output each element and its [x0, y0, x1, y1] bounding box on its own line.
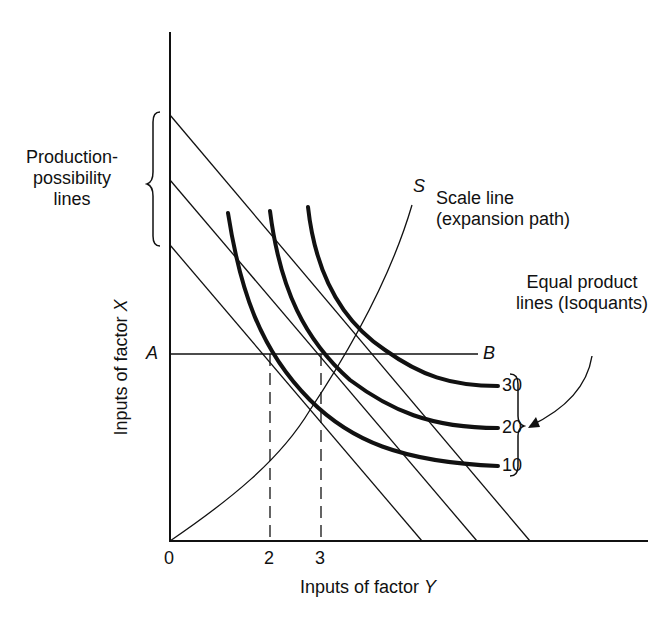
- equal-line-1: Equal product: [497, 272, 667, 293]
- label-b: B: [483, 343, 495, 364]
- equal-line-2: lines (Isoquants): [497, 293, 667, 314]
- x-axis-label: Inputs of factor Y: [300, 577, 436, 598]
- scale-line-2: (expansion path): [436, 209, 570, 230]
- label-production-possibility: Production- possibility lines: [2, 147, 142, 210]
- x-axis-variable: Y: [424, 577, 436, 597]
- label-isoquant-30: 30: [502, 375, 522, 396]
- y-axis-variable: X: [111, 299, 131, 311]
- tick-3: 3: [315, 548, 325, 569]
- tick-0: 0: [164, 548, 174, 569]
- production-possibility-line-3: [170, 115, 530, 541]
- production-possibility-line-2: [170, 180, 477, 541]
- label-a: A: [146, 343, 158, 364]
- brace-production-possibility: [147, 112, 160, 246]
- label-scale-line: Scale line (expansion path): [436, 188, 570, 230]
- scale-line: [170, 205, 412, 541]
- production-possibility-line-1: [170, 245, 422, 541]
- label-s: S: [413, 176, 425, 197]
- label-equal-product: Equal product lines (Isoquants): [497, 272, 667, 314]
- ppl-line-2: possibility: [2, 168, 142, 189]
- y-axis-label: Inputs of factor X: [111, 273, 132, 463]
- arrow-isoquants: [530, 356, 592, 426]
- tick-2: 2: [264, 548, 274, 569]
- x-axis-label-text: Inputs of factor: [300, 577, 419, 597]
- ppl-line-1: Production-: [2, 147, 142, 168]
- label-isoquant-10: 10: [502, 455, 522, 476]
- ppl-line-3: lines: [2, 189, 142, 210]
- label-isoquant-20: 20: [502, 417, 522, 438]
- y-axis-label-text: Inputs of factor: [111, 316, 131, 435]
- scale-line-1: Scale line: [436, 188, 570, 209]
- isoquant-10: [228, 213, 498, 466]
